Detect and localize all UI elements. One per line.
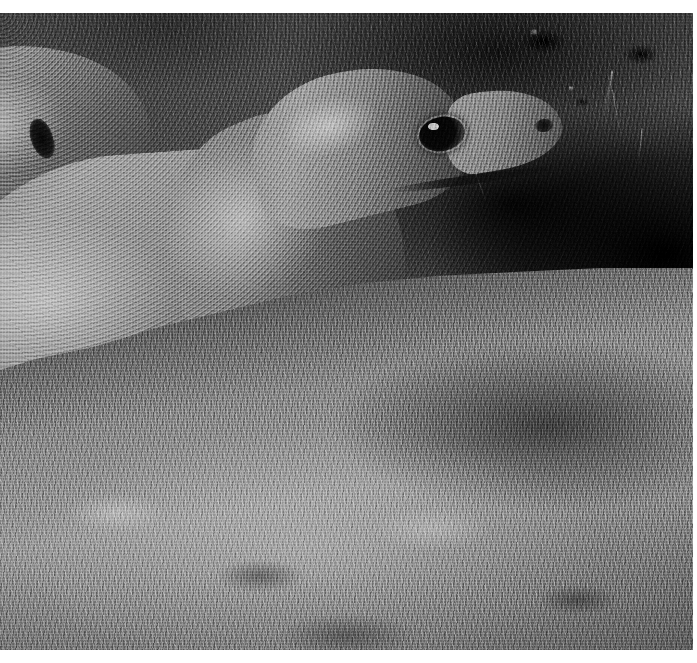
page-canvas: Komodo dragons resting on grass Two Komo…: [0, 0, 697, 663]
photograph-plate: [0, 13, 693, 650]
bottom-margin: [0, 650, 697, 663]
